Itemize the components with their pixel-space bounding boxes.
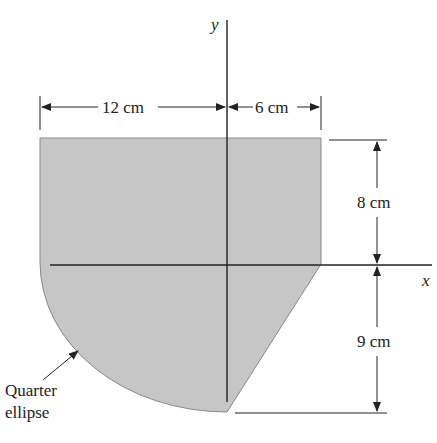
figure-canvas: [0, 0, 437, 443]
dimension-label-12cm: 12 cm: [102, 99, 144, 116]
dimension-label-9cm: 9 cm: [357, 333, 391, 350]
composite-area-shape: [40, 138, 321, 412]
ellipse-leader-arrow: [43, 351, 78, 380]
x-axis-label: x: [422, 272, 430, 289]
annotation-ellipse: ellipse: [5, 404, 49, 421]
dimension-label-6cm: 6 cm: [255, 99, 289, 116]
dimension-label-8cm: 8 cm: [357, 194, 391, 211]
annotation-quarter: Quarter: [5, 382, 57, 399]
y-axis-label: y: [211, 16, 219, 33]
